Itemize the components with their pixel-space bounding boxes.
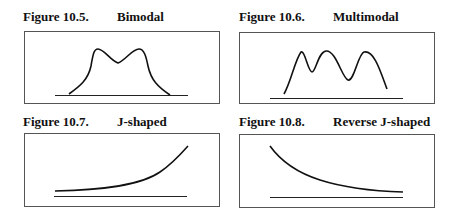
figure-frame (240, 135, 435, 208)
figure-frame (25, 134, 220, 207)
figure-10-7-j-shaped (25, 134, 220, 207)
figure-10-6-multimodal (240, 33, 435, 104)
figure-frame (25, 32, 220, 104)
reverse-j-shaped-curve (270, 146, 403, 192)
multimodal-curve (284, 51, 387, 94)
j-shaped-curve (55, 146, 188, 191)
figures-canvas (0, 0, 458, 220)
figure-10-5-bimodal (25, 32, 220, 104)
figure-frame (240, 33, 435, 104)
figure-10-8-reverse-j-shaped (240, 135, 435, 208)
bimodal-curve (69, 49, 170, 95)
